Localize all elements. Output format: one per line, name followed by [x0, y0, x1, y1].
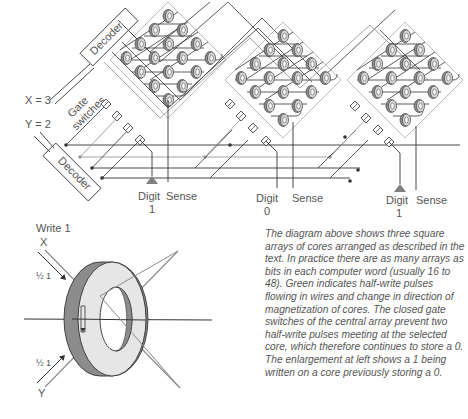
core-array-center: Digit 0 Sense	[225, 22, 341, 217]
svg-text:Sense: Sense	[292, 192, 323, 204]
figure-caption: The diagram above shows three square arr…	[265, 228, 465, 379]
decoder-bottom: Decoder	[43, 143, 101, 201]
svg-text:½ 1: ½ 1	[36, 358, 51, 368]
svg-text:Digit: Digit	[138, 190, 160, 202]
svg-text:Y: Y	[38, 387, 46, 399]
svg-text:1: 1	[149, 203, 155, 215]
core-enlargement: Write 1 X Y ½ 1 ½ 1	[24, 222, 212, 399]
x-input-label: X = 3	[25, 94, 51, 106]
svg-text:Sense: Sense	[416, 194, 447, 206]
svg-text:½ 1: ½ 1	[36, 271, 51, 281]
core-array-right: Digit 1 Sense	[347, 22, 463, 219]
svg-text:0: 0	[264, 205, 270, 217]
y-input-label: Y = 2	[25, 118, 51, 130]
svg-text:Sense: Sense	[166, 190, 197, 202]
svg-text:X: X	[40, 236, 48, 248]
svg-text:Digit: Digit	[386, 194, 408, 206]
caption-text: The diagram above shows three square arr…	[265, 228, 465, 379]
svg-text:Digit: Digit	[256, 192, 278, 204]
svg-text:1: 1	[396, 207, 402, 219]
write-1-label: Write 1	[36, 222, 71, 234]
